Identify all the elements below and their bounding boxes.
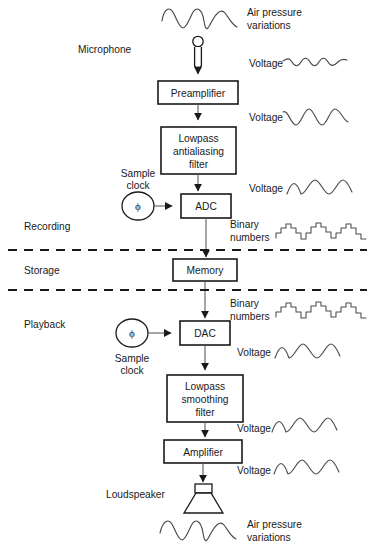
- block-lowpass-antialiasing-filter[interactable]: Lowpass antialiasing filter: [161, 127, 236, 174]
- block-adc[interactable]: ADC: [181, 194, 231, 218]
- sample-clock-recording-line1: Sample: [121, 168, 156, 179]
- binary-numbers-memory-label-line1: Binary: [230, 298, 260, 309]
- block-lowpass-antialiasing-line3: filter: [189, 159, 209, 170]
- block-lowpass-smoothing-line1: Lowpass: [185, 381, 225, 392]
- microphone-icon: [193, 36, 203, 68]
- binary-numbers-memory-label-line2: numbers: [230, 311, 270, 322]
- block-dac-label: DAC: [194, 328, 216, 339]
- block-memory[interactable]: Memory: [173, 259, 237, 281]
- wave-voltage-mic-out: [283, 58, 347, 66]
- sample-clock-playback-line2: clock: [120, 365, 144, 376]
- block-lowpass-smoothing-line2: smoothing: [181, 394, 228, 405]
- wave-voltage-smoothing-out: [272, 418, 337, 432]
- stage-label-playback: Playback: [24, 319, 66, 330]
- air-pressure-top-label-line2: variations: [247, 20, 291, 31]
- stage-label-recording: Recording: [24, 221, 71, 232]
- voltage-dac-out-label: Voltage: [237, 347, 271, 358]
- phi-glyph-recording: ϕ: [135, 200, 141, 212]
- sample-clock-playback-line1: Sample: [115, 353, 150, 364]
- block-lowpass-smoothing-line3: filter: [195, 407, 215, 418]
- air-pressure-bottom-label-line1: Air pressure: [247, 519, 302, 530]
- block-lowpass-antialiasing-line2: antialiasing: [173, 146, 224, 157]
- wave-binary-numbers-memory-out: [276, 302, 366, 318]
- wave-voltage-amp-out: [274, 460, 339, 474]
- microphone-label: Microphone: [78, 44, 132, 55]
- wave-air-pressure-top: [162, 9, 237, 29]
- block-preamplifier-label: Preamplifier: [171, 88, 226, 99]
- block-adc-label: ADC: [195, 201, 217, 212]
- block-amplifier-label: Amplifier: [183, 447, 223, 458]
- voltage-amp-out-label: Voltage: [237, 465, 271, 476]
- wave-voltage-filter-out: [287, 180, 352, 194]
- signal-chain-diagram: Air pressure variations Microphone Volta…: [0, 0, 375, 552]
- block-dac[interactable]: DAC: [180, 321, 230, 345]
- loudspeaker-icon: [184, 484, 223, 513]
- loudspeaker-label: Loudspeaker: [106, 489, 166, 500]
- binary-numbers-adc-label-line2: numbers: [230, 232, 270, 243]
- sample-clock-recording-line2: clock: [126, 180, 150, 191]
- voltage-mic-out-label: Voltage: [249, 58, 283, 69]
- wave-voltage-dac-out: [275, 344, 340, 358]
- wave-air-pressure-bottom: [160, 521, 236, 541]
- voltage-filter-out-label: Voltage: [249, 183, 283, 194]
- block-amplifier[interactable]: Amplifier: [164, 440, 242, 463]
- block-lowpass-antialiasing-line1: Lowpass: [178, 133, 218, 144]
- wave-binary-numbers-adc-out: [276, 223, 366, 239]
- voltage-preamp-out-label: Voltage: [249, 112, 283, 123]
- phi-glyph-playback: ϕ: [129, 327, 135, 339]
- sample-clock-playback-icon[interactable]: ϕ: [116, 319, 148, 347]
- wave-voltage-preamp-out: [283, 109, 348, 125]
- binary-numbers-adc-label-line1: Binary: [230, 219, 260, 230]
- block-memory-label: Memory: [187, 265, 225, 276]
- diagram-canvas: Air pressure variations Microphone Volta…: [0, 0, 375, 552]
- block-lowpass-smoothing-filter[interactable]: Lowpass smoothing filter: [167, 375, 243, 422]
- stage-label-storage: Storage: [24, 265, 60, 276]
- block-preamplifier[interactable]: Preamplifier: [158, 81, 238, 104]
- voltage-smoothing-out-label: Voltage: [237, 423, 271, 434]
- air-pressure-bottom-label-line2: variations: [247, 532, 291, 543]
- air-pressure-top-label-line1: Air pressure: [247, 7, 302, 18]
- sample-clock-recording-icon[interactable]: ϕ: [122, 192, 154, 220]
